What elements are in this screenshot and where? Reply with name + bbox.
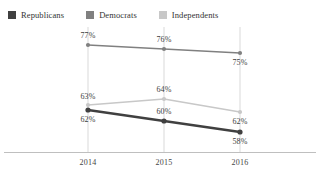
legend-label-independents: Independents bbox=[172, 11, 219, 20]
data-point-democrats-2016 bbox=[238, 51, 242, 55]
legend-swatch-icon-democrats bbox=[86, 11, 94, 19]
legend-item-independents[interactable]: Independents bbox=[159, 9, 219, 21]
x-tick-2014: 2014 bbox=[80, 158, 97, 168]
data-point-republicans-2015 bbox=[161, 118, 166, 123]
legend-item-democrats[interactable]: Democrats bbox=[86, 9, 137, 21]
x-axis: 2014 2015 2016 bbox=[0, 158, 320, 172]
data-label-independents-2014: 63% bbox=[81, 92, 96, 101]
x-tick-2015: 2015 bbox=[156, 158, 173, 168]
x-tick-2016: 2016 bbox=[232, 158, 249, 168]
data-label-democrats-2014: 77% bbox=[81, 31, 96, 40]
data-label-independents-2015: 64% bbox=[157, 85, 172, 94]
chart-legend: Republicans Democrats Independents bbox=[8, 9, 240, 21]
data-point-independents-2014 bbox=[86, 103, 90, 107]
legend-label-democrats: Democrats bbox=[99, 11, 137, 20]
data-label-democrats-2015: 76% bbox=[157, 35, 172, 44]
legend-item-republicans[interactable]: Republicans bbox=[8, 9, 64, 21]
data-label-republicans-2015: 60% bbox=[157, 107, 172, 116]
plot-area: 77% 76% 75% 63% 64% 62% 62% 60% 58% bbox=[0, 25, 320, 155]
data-label-democrats-2016: 75% bbox=[233, 58, 248, 67]
data-label-republicans-2014: 62% bbox=[81, 115, 96, 124]
data-label-independents-2016: 62% bbox=[233, 117, 248, 126]
data-label-republicans-2016: 58% bbox=[233, 137, 248, 146]
data-point-republicans-2016 bbox=[237, 129, 242, 134]
data-point-republicans-2014 bbox=[85, 107, 90, 112]
legend-swatch-icon-independents bbox=[159, 11, 167, 19]
data-point-democrats-2015 bbox=[162, 47, 166, 51]
legend-label-republicans: Republicans bbox=[21, 11, 64, 20]
data-point-independents-2016 bbox=[238, 110, 242, 114]
legend-swatch-icon-republicans bbox=[8, 11, 16, 19]
data-point-independents-2015 bbox=[162, 97, 166, 101]
data-point-democrats-2014 bbox=[86, 43, 90, 47]
line-chart: Republicans Democrats Independents bbox=[0, 0, 320, 179]
